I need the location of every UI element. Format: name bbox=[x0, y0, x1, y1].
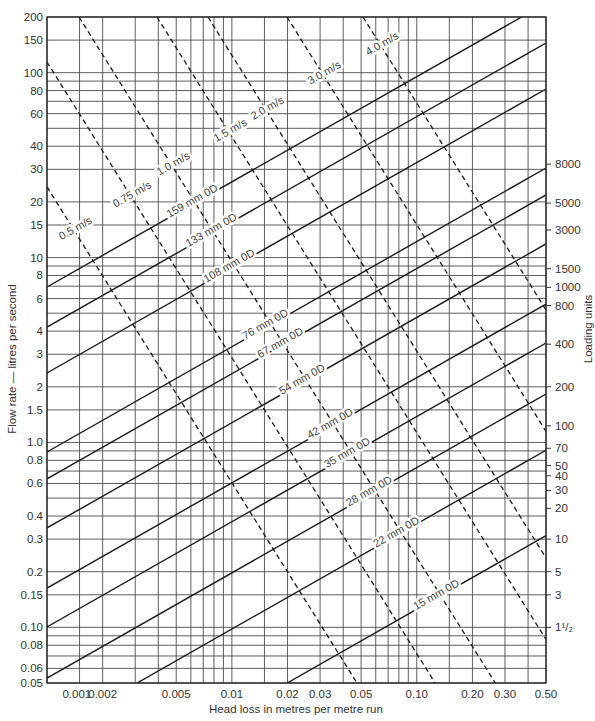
y2-tick-label: 5 bbox=[555, 566, 561, 578]
y-tick-label: 15 bbox=[30, 219, 43, 231]
y-tick-label: 0.05 bbox=[21, 677, 43, 689]
y2-tick-label: 100 bbox=[555, 420, 574, 432]
pipe-line-159-mm-0d bbox=[47, 17, 522, 287]
gridlines bbox=[47, 17, 546, 683]
y2-tick-label: 200 bbox=[555, 381, 574, 393]
y2-tick-label: 8000 bbox=[555, 158, 581, 170]
x-tick-label: 0.03 bbox=[309, 688, 331, 700]
pipe-size-label: 54 mm 0D bbox=[277, 361, 327, 396]
plot-frame bbox=[47, 17, 546, 683]
pipe-size-label: 108 mm 0D bbox=[201, 246, 256, 284]
y2-tick-label: 30 bbox=[555, 484, 568, 496]
velocity-line-1.5-m-s bbox=[157, 17, 546, 639]
y-tick-label: 0.06 bbox=[21, 662, 43, 674]
pipe-size-label: 28 mm 0D bbox=[344, 473, 394, 508]
pipe-size-label: 133 mm 0D bbox=[183, 210, 238, 248]
velocity-label: 3.0 m/s bbox=[305, 58, 343, 86]
y-tick-label: 1.5 bbox=[27, 404, 43, 416]
velocity-label: 1.5 m/s bbox=[211, 116, 249, 144]
y-tick-label: 0.08 bbox=[21, 639, 43, 651]
velocity-label: 0.5 m/s bbox=[57, 214, 95, 242]
pipe-size-label: 159 mm 0D bbox=[164, 181, 219, 219]
x-tick-label: 0.01 bbox=[221, 688, 243, 700]
y-tick-label: 40 bbox=[30, 140, 43, 152]
velocity-line-2.0-m-s bbox=[208, 17, 546, 558]
y2-tick-label: 1500 bbox=[555, 263, 581, 275]
pipe-line-22-mm-0d bbox=[137, 450, 546, 683]
x-tick-label: 0.001 bbox=[62, 688, 91, 700]
y-tick-label: 1.0 bbox=[27, 436, 43, 448]
y2-tick-label: 3 bbox=[555, 589, 561, 601]
y-tick-label: 0.6 bbox=[27, 477, 43, 489]
y-tick-label: 2 bbox=[37, 381, 43, 393]
line-labels: 159 mm 0D133 mm 0D108 mm 0D76 mm 0D67 mm… bbox=[57, 29, 462, 612]
y-tick-label: 0.2 bbox=[27, 566, 43, 578]
y-tick-label: 0.3 bbox=[27, 533, 43, 545]
x-tick-label: 0.20 bbox=[461, 688, 483, 700]
x-tick-label: 0.10 bbox=[406, 688, 428, 700]
pipe-size-label: 15 mm 0D bbox=[411, 577, 461, 612]
y-tick-label: 4 bbox=[37, 325, 44, 337]
y2-tick-label: 20 bbox=[555, 502, 568, 514]
pipe-line-42-mm-0d bbox=[47, 304, 546, 588]
x-axis-title: Head loss in metres per metre run bbox=[209, 703, 383, 715]
y2-tick-label: 40 bbox=[555, 470, 568, 482]
y-tick-label: 10 bbox=[30, 252, 43, 264]
x-tick-label: 0.005 bbox=[162, 688, 191, 700]
x-tick-label: 0.002 bbox=[88, 688, 117, 700]
velocity-label: 2.0 m/s bbox=[248, 93, 286, 121]
y2-tick-label: 10 bbox=[555, 533, 568, 545]
y-tick-label: 200 bbox=[24, 11, 43, 23]
pipe-size-label: 35 mm 0D bbox=[322, 435, 372, 470]
y2-tick-label: 3000 bbox=[555, 224, 581, 236]
velocity-label: 1.0 m/s bbox=[154, 149, 192, 177]
y2-tick-label: 5000 bbox=[555, 197, 581, 209]
y2-tick-label: 70 bbox=[555, 442, 568, 454]
y2-tick-label: 800 bbox=[555, 300, 574, 312]
y-tick-label: 3 bbox=[37, 348, 43, 360]
y2-tick-label: 400 bbox=[555, 338, 574, 350]
y-tick-label: 30 bbox=[30, 163, 43, 175]
velocity-label: 4.0 m/s bbox=[363, 29, 401, 57]
y-tick-label: 8 bbox=[37, 269, 43, 281]
axis-ticks: 20015010080604030201510864321.51.00.80.6… bbox=[21, 11, 581, 700]
x-tick-label: 0.05 bbox=[350, 688, 372, 700]
y-tick-label: 0.4 bbox=[27, 510, 44, 522]
pipe-sizing-chart: 159 mm 0D133 mm 0D108 mm 0D76 mm 0D67 mm… bbox=[0, 0, 595, 721]
y-tick-label: 6 bbox=[37, 293, 43, 305]
y2-tick-label: 1¹/₂ bbox=[555, 621, 573, 633]
series-lines bbox=[47, 17, 546, 683]
y2-axis-title: Loading units bbox=[582, 295, 594, 364]
x-tick-label: 0.30 bbox=[494, 688, 516, 700]
y-tick-label: 0.8 bbox=[27, 454, 43, 466]
pipe-line-76-mm-0d bbox=[47, 168, 546, 452]
velocity-line-0.75-m-s bbox=[47, 62, 435, 683]
x-tick-label: 0.02 bbox=[276, 688, 298, 700]
pipe-size-label: 22 mm 0D bbox=[371, 514, 421, 549]
y-tick-label: 0.15 bbox=[21, 589, 43, 601]
y-tick-label: 150 bbox=[24, 34, 43, 46]
y-tick-label: 80 bbox=[30, 85, 43, 97]
y-axis-title: Flow rate — litres per second bbox=[6, 284, 18, 434]
y-tick-label: 100 bbox=[24, 67, 43, 79]
y-tick-label: 60 bbox=[30, 108, 43, 120]
y2-tick-label: 1000 bbox=[555, 281, 581, 293]
pipe-size-label: 42 mm 0D bbox=[305, 405, 355, 440]
x-tick-label: 0.50 bbox=[535, 688, 557, 700]
velocity-label: 0.75 m/s bbox=[111, 178, 154, 209]
y-tick-label: 0.10 bbox=[21, 621, 43, 633]
y-tick-label: 20 bbox=[30, 196, 43, 208]
chart-canvas: 159 mm 0D133 mm 0D108 mm 0D76 mm 0D67 mm… bbox=[0, 0, 595, 721]
